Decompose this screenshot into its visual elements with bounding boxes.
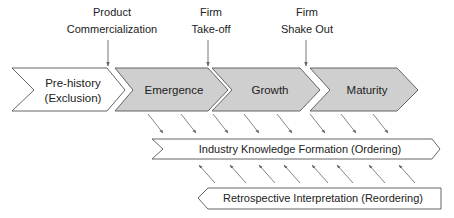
diagonal-arrow-icon: [399, 165, 415, 183]
milestone-label-line1: Firm: [296, 6, 318, 18]
stage-label: Emergence: [145, 84, 204, 96]
diagonal-arrow-icon: [373, 114, 388, 133]
stage-maturity: Maturity: [310, 68, 418, 111]
reordering-arrows: [199, 165, 415, 183]
diagonal-arrow-icon: [199, 165, 215, 183]
process-label: Retrospective Interpretation (Reordering…: [223, 192, 423, 204]
stage-growth: Growth: [212, 68, 320, 111]
stage-label: Maturity: [347, 84, 388, 96]
diagonal-arrow-icon: [337, 165, 353, 183]
milestone-label-line2: Shake Out: [281, 23, 333, 35]
milestone-product-commercialization: Product Commercialization: [67, 6, 157, 66]
stage-label: Growth: [251, 84, 288, 96]
stage-label-line2: (Exclusion): [45, 92, 102, 104]
stage-pre-history: Pre-history (Exclusion): [12, 68, 125, 111]
diagonal-arrow-icon: [230, 165, 246, 183]
process-ordering: Industry Knowledge Formation (Ordering): [152, 139, 440, 159]
diagonal-arrow-icon: [259, 165, 275, 183]
diagonal-arrow-icon: [310, 114, 325, 133]
diagonal-arrow-icon: [284, 165, 300, 183]
diagonal-arrow-icon: [148, 114, 163, 133]
diagonal-arrow-icon: [312, 165, 328, 183]
milestone-label-line1: Product: [93, 6, 131, 18]
industry-evolution-diagram: Product Commercialization Firm Take-off …: [0, 0, 454, 218]
stage-label-line1: Pre-history: [45, 77, 101, 89]
milestone-firm-take-off: Firm Take-off: [192, 6, 232, 66]
diagonal-arrow-icon: [244, 114, 259, 133]
chevron-shape: [12, 68, 125, 111]
milestone-firm-shake-out: Firm Shake Out: [281, 6, 333, 66]
ordering-arrows: [148, 114, 388, 133]
milestone-label-line1: Firm: [200, 6, 222, 18]
diagonal-arrow-icon: [369, 165, 385, 183]
diagonal-arrow-icon: [341, 114, 356, 133]
diagonal-arrow-icon: [181, 114, 196, 133]
process-label: Industry Knowledge Formation (Ordering): [199, 143, 401, 155]
milestone-label-line2: Take-off: [192, 23, 232, 35]
stage-emergence: Emergence: [115, 68, 228, 111]
process-reordering: Retrospective Interpretation (Reordering…: [198, 188, 441, 209]
milestone-label-line2: Commercialization: [67, 23, 157, 35]
diagonal-arrow-icon: [213, 114, 228, 133]
diagonal-arrow-icon: [277, 114, 292, 133]
